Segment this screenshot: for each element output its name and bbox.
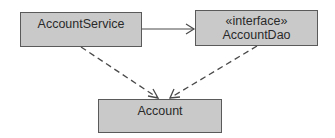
interface-account-dao[interactable]: «interface» AccountDao bbox=[195, 10, 318, 46]
class-account[interactable]: Account bbox=[98, 99, 222, 133]
interface-name: AccountDao bbox=[222, 28, 290, 42]
stereotype-label: «interface» bbox=[226, 14, 288, 28]
dependency-arrow-dao-account bbox=[170, 46, 257, 98]
class-name: AccountService bbox=[38, 17, 125, 31]
association-arrow bbox=[142, 24, 194, 34]
class-name: Account bbox=[137, 104, 182, 118]
class-account-service[interactable]: AccountService bbox=[20, 12, 142, 47]
dependency-arrow-service-account bbox=[81, 47, 158, 98]
